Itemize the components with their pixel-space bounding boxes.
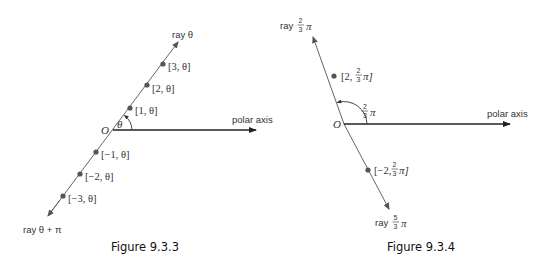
point-frac-den: 3 <box>357 76 361 83</box>
point-2-two-thirds-pi-label: [2, 2 3 π] <box>341 67 373 83</box>
point-neg2-two-thirds-pi-label: [−2, 2 3 π] <box>374 161 409 177</box>
ray-frac-den: 3 <box>394 223 398 230</box>
ray-pi: π <box>306 20 312 32</box>
polar-axis-label: polar axis <box>232 114 273 125</box>
angle-theta-label: θ <box>117 118 123 130</box>
ray-prefix: ray <box>375 217 388 228</box>
point-frac-num: 2 <box>357 67 361 74</box>
ray-five-thirds-pi-label: ray 5 3 π <box>375 214 407 230</box>
point-neg1-theta <box>93 149 98 154</box>
point-neg1-theta-label: [−1, θ] <box>101 149 129 160</box>
polar-axis-label: polar axis <box>487 108 528 119</box>
point-label-prefix: [2, <box>341 71 352 82</box>
points-fig1: [3, θ] [2, θ] [1, θ] [−1, θ] [−2, θ] [−3… <box>60 61 190 204</box>
figure-9-3-3: O θ polar axis ray θ ray θ + π [3, θ] [2… <box>23 29 273 254</box>
ray-theta-plus-pi-arrow <box>48 200 60 216</box>
point-label-suffix: π] <box>363 70 373 82</box>
point-neg3-theta <box>60 193 65 198</box>
point-2-two-thirds-pi <box>331 73 336 78</box>
ray-theta-label: ray θ <box>172 29 193 40</box>
ray-prefix: ray <box>280 20 293 31</box>
ray-frac-den: 3 <box>299 26 303 33</box>
point-2-theta <box>144 82 149 87</box>
ray-two-thirds-pi-label: ray 2 3 π <box>280 17 312 33</box>
polar-coordinates-diagram: O θ polar axis ray θ ray θ + π [3, θ] [2… <box>0 0 545 266</box>
point-3-theta-label: [3, θ] <box>168 61 191 72</box>
point-3-theta <box>160 61 165 66</box>
point-frac-num: 2 <box>393 161 397 168</box>
point-1-theta <box>127 105 132 110</box>
origin-label: O <box>101 124 109 136</box>
ray-two-thirds-pi-line <box>313 37 344 124</box>
ray-frac-num: 5 <box>394 214 398 221</box>
angle-frac-den: 3 <box>363 112 367 119</box>
angle-pi: π <box>370 106 376 118</box>
angle-theta-arc <box>125 116 133 131</box>
figure-9-3-4: O 2 3 π polar axis ray 2 3 π ray 5 3 π [… <box>280 17 528 254</box>
ray-pi: π <box>401 217 407 229</box>
figure-caption: Figure 9.3.4 <box>387 240 455 254</box>
angle-label: 2 3 π <box>362 103 377 119</box>
angle-frac-num: 2 <box>363 103 367 110</box>
point-label-prefix: [−2, <box>374 165 391 176</box>
point-2-theta-label: [2, θ] <box>152 83 175 94</box>
point-label-suffix: π] <box>399 164 409 176</box>
figure-caption: Figure 9.3.3 <box>111 240 179 254</box>
point-neg2-two-thirds-pi <box>365 167 370 172</box>
ray-frac-num: 2 <box>299 17 303 24</box>
point-neg2-theta-label: [−2, θ] <box>85 171 113 182</box>
ray-theta-line <box>48 42 178 216</box>
point-neg2-theta <box>77 171 82 176</box>
point-neg3-theta-label: [−3, θ] <box>68 193 96 204</box>
point-frac-den: 3 <box>393 170 397 177</box>
origin-label: O <box>333 118 341 130</box>
point-1-theta-label: [1, θ] <box>135 105 158 116</box>
ray-theta-plus-pi-label: ray θ + π <box>23 224 62 235</box>
